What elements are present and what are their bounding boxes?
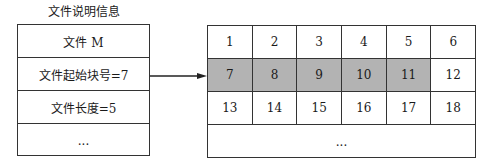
- disk-block: 4: [342, 26, 387, 58]
- fcb-file-length: 文件长度=5: [18, 91, 149, 124]
- disk-block-allocated: 10: [342, 59, 387, 91]
- disk-block: 2: [253, 26, 298, 58]
- disk-block-allocated: 8: [253, 59, 298, 91]
- disk-block: 18: [431, 92, 475, 124]
- disk-block-grid: 1 2 3 4 5 6 7 8 9 10 11 12 13 14 15 16 1…: [207, 25, 476, 158]
- file-control-block-caption: 文件说明信息: [17, 4, 151, 20]
- disk-block: 16: [342, 92, 387, 124]
- disk-row-2: 7 8 9 10 11 12: [208, 59, 475, 92]
- disk-block-allocated: 9: [297, 59, 342, 91]
- disk-block-allocated: 11: [387, 59, 432, 91]
- disk-block: 6: [431, 26, 475, 58]
- disk-more-blocks: ...: [208, 125, 475, 158]
- disk-block: 14: [253, 92, 298, 124]
- disk-block-allocated: 7: [208, 59, 253, 91]
- fcb-more: ...: [18, 124, 149, 157]
- fcb-file-name: 文件 M: [18, 25, 149, 58]
- fcb-start-block: 文件起始块号=7: [18, 58, 149, 91]
- disk-block: 17: [387, 92, 432, 124]
- disk-row-3: 13 14 15 16 17 18: [208, 92, 475, 125]
- disk-block: 13: [208, 92, 253, 124]
- file-control-block: 文件 M 文件起始块号=7 文件长度=5 ...: [17, 24, 150, 156]
- disk-block: 15: [297, 92, 342, 124]
- pointer-arrow-icon: [150, 72, 207, 80]
- disk-block: 5: [387, 26, 432, 58]
- disk-block: 3: [297, 26, 342, 58]
- disk-block: 1: [208, 26, 253, 58]
- disk-row-1: 1 2 3 4 5 6: [208, 26, 475, 59]
- disk-block: 12: [431, 59, 475, 91]
